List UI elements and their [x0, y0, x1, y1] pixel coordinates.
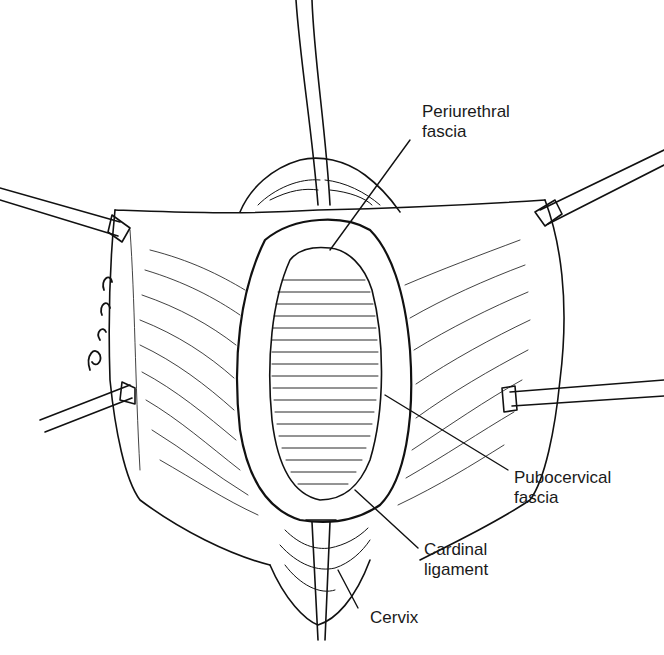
tenaculum-bottom	[306, 520, 336, 640]
flap-hatching-left	[130, 230, 258, 515]
label-cardinal-ligament: Cardinal ligament	[424, 540, 488, 580]
label-line: ligament	[424, 560, 488, 580]
label-line: Cervix	[370, 608, 418, 628]
retractor-right	[502, 380, 664, 412]
label-line: fascia	[514, 488, 611, 508]
label-line: Pubocervical	[514, 468, 611, 488]
label-line: fascia	[422, 122, 510, 142]
catheter-top	[296, 0, 330, 205]
label-periurethral-fascia: Periurethral fascia	[422, 102, 510, 142]
label-line: Cardinal	[424, 540, 488, 560]
label-cervix: Cervix	[370, 608, 418, 628]
vaginal-flap-outline	[109, 200, 564, 625]
central-oval	[237, 220, 411, 522]
flap-hatching-right	[398, 240, 530, 505]
label-pubocervical-fascia: Pubocervical fascia	[514, 468, 611, 508]
fascia-hatching	[272, 280, 378, 484]
surgical-illustration	[0, 0, 664, 655]
retractor-upper-left	[0, 188, 130, 242]
retractor-lower-left	[40, 382, 135, 432]
retractor-upper-right	[535, 150, 664, 226]
urethral-mound	[240, 158, 400, 212]
label-line: Periurethral	[422, 102, 510, 122]
cervix-region	[280, 528, 370, 591]
